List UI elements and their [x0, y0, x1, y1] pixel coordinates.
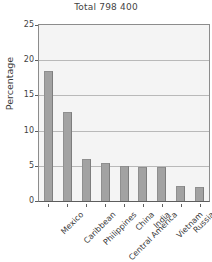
- chart-title: Total 798 400: [0, 2, 212, 12]
- bar: [82, 159, 91, 201]
- x-tick-mark: [200, 204, 201, 207]
- y-tick-label: 10: [8, 127, 34, 135]
- bar: [63, 112, 72, 201]
- y-tick-label: 25: [8, 21, 34, 29]
- y-tick-label: 20: [8, 56, 34, 64]
- x-tick-mark: [124, 204, 125, 207]
- x-tick-mark: [143, 204, 144, 207]
- y-tick-mark: [35, 60, 38, 61]
- x-tick-mark: [162, 204, 163, 207]
- x-axis: MexicoCaribbeanPhilippinesCentral Americ…: [0, 204, 212, 262]
- x-tick-mark: [48, 204, 49, 207]
- y-tick-mark: [35, 131, 38, 132]
- x-tick-mark: [86, 204, 87, 207]
- y-tick-mark: [35, 25, 38, 26]
- y-tick-mark: [35, 166, 38, 167]
- y-tick-mark: [35, 95, 38, 96]
- bar: [120, 166, 129, 201]
- bar: [176, 186, 185, 201]
- bar: [157, 167, 166, 201]
- bars-group: [39, 25, 209, 201]
- y-tick-mark: [35, 201, 38, 202]
- bar: [101, 163, 110, 201]
- bar: [138, 167, 147, 201]
- bar: [195, 187, 204, 201]
- x-tick-mark: [181, 204, 182, 207]
- x-tick-mark: [67, 204, 68, 207]
- y-tick-label: 5: [8, 162, 34, 170]
- bar: [44, 71, 53, 201]
- x-tick-mark: [105, 204, 106, 207]
- bar-chart-figure: Total 798 400 Percentage 0510152025 Mexi…: [0, 0, 212, 262]
- x-tick-label: Mexico: [60, 210, 86, 236]
- y-tick-label: 15: [8, 91, 34, 99]
